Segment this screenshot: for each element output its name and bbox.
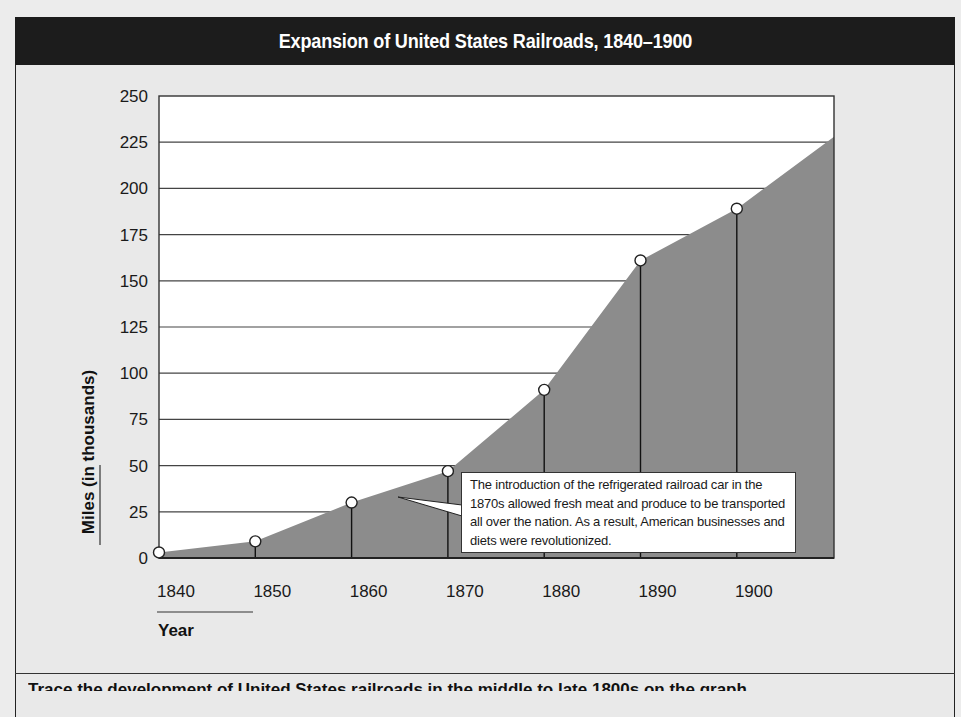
x-tick-label: 1900 xyxy=(735,582,773,601)
y-tick-label: 50 xyxy=(129,457,148,476)
y-tick-label: 150 xyxy=(120,272,148,291)
bottom-divider xyxy=(15,673,955,674)
data-point-marker xyxy=(442,466,453,477)
y-tick-label: 175 xyxy=(120,226,148,245)
x-axis-title: Year xyxy=(158,621,194,640)
y-tick-label: 75 xyxy=(129,410,148,429)
data-point-marker xyxy=(250,536,261,547)
y-tick-label: 25 xyxy=(129,503,148,522)
x-tick-label: 1880 xyxy=(542,582,580,601)
x-tick-label: 1890 xyxy=(639,582,677,601)
x-axis-ticks: 1840185018601870188018901900 xyxy=(157,582,773,601)
data-point-marker xyxy=(731,203,742,214)
y-tick-label: 0 xyxy=(139,549,148,568)
y-axis-ticks: 0255075100125150175200225250 xyxy=(120,87,148,568)
data-point-marker xyxy=(154,547,165,558)
data-point-marker xyxy=(635,255,646,266)
y-axis-title: Miles (in thousands) xyxy=(79,370,98,534)
y-tick-label: 125 xyxy=(120,318,148,337)
x-tick-label: 1850 xyxy=(253,582,291,601)
y-tick-label: 100 xyxy=(120,364,148,383)
x-tick-label: 1840 xyxy=(157,582,195,601)
y-tick-label: 250 xyxy=(120,87,148,106)
annotation-callout: The introduction of the refrigerated rai… xyxy=(461,472,796,553)
bottom-caption: Trace the development of United States r… xyxy=(28,680,948,691)
y-tick-label: 200 xyxy=(120,179,148,198)
data-point-marker xyxy=(539,384,550,395)
data-point-marker xyxy=(346,497,357,508)
x-tick-label: 1860 xyxy=(350,582,388,601)
x-tick-label: 1870 xyxy=(446,582,484,601)
y-tick-label: 225 xyxy=(120,133,148,152)
